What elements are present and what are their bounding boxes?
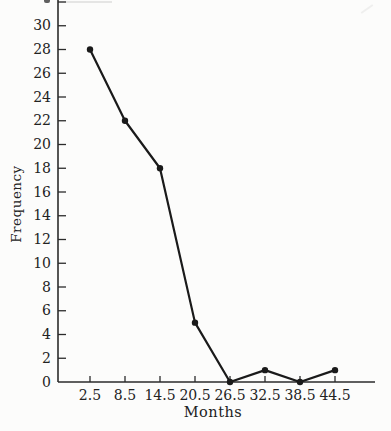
frequency-polygon-line — [90, 50, 335, 383]
x-tick-label: 26.5 — [214, 387, 245, 403]
x-tick-label: 14.5 — [144, 387, 175, 403]
chart-svg: 0246810121416182022242628302.58.514.520.… — [0, 0, 391, 431]
y-tick-label: 30 — [33, 17, 51, 33]
y-tick-label: 24 — [33, 89, 51, 105]
x-tick-label: 8.5 — [114, 387, 136, 403]
y-tick-label: 10 — [33, 255, 51, 271]
x-tick-label: 44.5 — [319, 387, 350, 403]
y-tick-label: 28 — [33, 41, 51, 57]
y-tick-label: 8 — [42, 279, 51, 295]
data-point-marker — [297, 379, 303, 385]
data-point-marker — [157, 165, 163, 171]
x-tick-label: 38.5 — [284, 387, 315, 403]
data-point-marker — [332, 367, 338, 373]
y-tick-label: 6 — [42, 302, 51, 318]
cutoff-print-smudge — [60, 1, 112, 3]
x-axis-title: Months — [143, 404, 283, 420]
y-tick-label: 20 — [33, 136, 51, 152]
x-tick-label: 32.5 — [249, 387, 280, 403]
y-tick-label: 18 — [33, 160, 51, 176]
y-axis-title: Frequency — [8, 152, 24, 256]
data-point-marker — [227, 379, 233, 385]
x-tick-label: 2.5 — [79, 387, 101, 403]
y-tick-label: 16 — [33, 184, 51, 200]
data-point-marker — [87, 46, 93, 52]
data-point-marker — [192, 319, 198, 325]
data-point-marker — [122, 118, 128, 124]
y-tick-label: 22 — [33, 112, 51, 128]
y-tick-label: 14 — [33, 207, 51, 223]
y-tick-label: 4 — [42, 326, 51, 342]
y-tick-label: 12 — [33, 231, 51, 247]
cutoff-print-artifact — [44, 0, 50, 3]
frequency-polygon-figure: 0246810121416182022242628302.58.514.520.… — [0, 0, 391, 431]
y-tick-label: 26 — [33, 65, 51, 81]
x-tick-label: 20.5 — [179, 387, 210, 403]
data-point-marker — [262, 367, 268, 373]
y-tick-label: 2 — [42, 350, 51, 366]
y-tick-label: 0 — [42, 374, 51, 390]
